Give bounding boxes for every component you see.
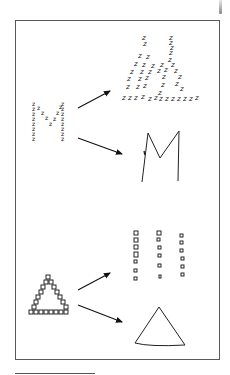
- svg-text:z: z: [164, 95, 169, 103]
- svg-text:z: z: [127, 94, 132, 102]
- global-reproduction-triangle: [135, 307, 185, 346]
- svg-text:z: z: [188, 95, 193, 103]
- m-right-column: zz zz zz zz: [61, 100, 64, 142]
- svg-text:z: z: [125, 83, 130, 91]
- figure-drawing: zz zz zz zz zz zz zz z zz zz zz zz zz zz…: [0, 0, 230, 375]
- arrow-down-right-icon: [78, 138, 122, 154]
- svg-text:z: z: [145, 53, 150, 61]
- svg-text:z: z: [161, 73, 166, 81]
- stimulus-compound-triangle: [29, 275, 68, 314]
- svg-text:z: z: [147, 95, 152, 103]
- svg-text:z: z: [170, 95, 175, 103]
- svg-text:z: z: [61, 135, 64, 142]
- svg-text:z: z: [158, 95, 163, 103]
- arrow-down-right-icon: [78, 305, 122, 322]
- m-stroke-mark: [144, 151, 145, 155]
- svg-text:z: z: [160, 81, 165, 89]
- svg-text:z: z: [142, 40, 147, 48]
- svg-text:z: z: [37, 104, 40, 111]
- svg-text:z: z: [45, 114, 48, 121]
- svg-text:z: z: [142, 82, 147, 90]
- svg-text:z: z: [179, 85, 184, 93]
- svg-text:z: z: [137, 75, 142, 83]
- stimulus-compound-m: zz zz zz zz zz zz zz z zz zz zz zz: [32, 100, 64, 142]
- svg-text:z: z: [156, 67, 161, 75]
- svg-text:z: z: [174, 80, 179, 88]
- svg-text:z: z: [49, 120, 52, 127]
- svg-text:z: z: [144, 74, 149, 82]
- svg-text:z: z: [140, 93, 145, 101]
- svg-text:z: z: [135, 83, 140, 91]
- svg-text:z: z: [133, 94, 138, 102]
- global-reproduction-m: [142, 131, 179, 182]
- arrow-up-right-icon: [78, 273, 110, 290]
- m-left-column: zz zz zz zz: [32, 100, 35, 142]
- svg-text:z: z: [194, 94, 199, 102]
- svg-text:z: z: [126, 75, 131, 83]
- svg-text:z: z: [121, 94, 126, 102]
- svg-text:z: z: [182, 95, 187, 103]
- local-reproduction-m: zz zzzz zz zzzzzz zzzzzz zzzzz zzzzzz zz…: [121, 34, 199, 103]
- m-diagonals: zz zz zz z: [37, 103, 62, 127]
- svg-text:z: z: [133, 60, 138, 68]
- svg-text:z: z: [41, 109, 44, 116]
- svg-text:z: z: [176, 95, 181, 103]
- svg-text:z: z: [56, 109, 59, 116]
- svg-text:z: z: [53, 115, 56, 122]
- local-reproduction-squares: [134, 231, 184, 280]
- arrow-up-right-icon: [78, 91, 110, 108]
- svg-text:z: z: [32, 135, 35, 142]
- svg-text:z: z: [137, 52, 142, 60]
